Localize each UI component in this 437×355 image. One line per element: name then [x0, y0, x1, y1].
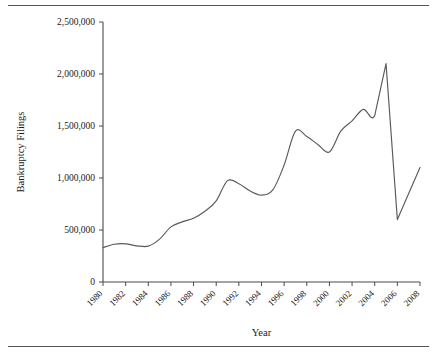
x-axis-title: Year: [252, 327, 272, 338]
x-tick-label: 2002: [334, 288, 354, 308]
x-tick-label: 2004: [356, 288, 376, 308]
chart-plot-area: 0500,0001,000,0001,500,0002,000,0002,500…: [0, 0, 437, 355]
line-chart-svg: 0500,0001,000,0001,500,0002,000,0002,500…: [0, 0, 437, 355]
x-tick-label: 1996: [266, 288, 286, 308]
y-axis-title: Bankruptcy Filings: [15, 112, 26, 193]
x-tick-label: 1998: [288, 288, 308, 308]
x-axis-tick-marks: [103, 282, 420, 286]
y-tick-label: 1,000,000: [57, 173, 95, 183]
y-tick-label: 0: [90, 277, 95, 287]
x-tick-label: 1990: [198, 288, 218, 308]
x-tick-label: 1982: [107, 288, 127, 308]
x-tick-label: 1980: [85, 288, 105, 308]
x-tick-label: 2008: [402, 288, 422, 308]
data-series-line: [103, 64, 420, 248]
figure-container: 0500,0001,000,0001,500,0002,000,0002,500…: [0, 0, 437, 355]
x-tick-label: 1994: [243, 288, 263, 308]
x-tick-label: 1992: [220, 288, 240, 308]
x-tick-label: 1988: [175, 288, 195, 308]
y-tick-label: 500,000: [64, 225, 95, 235]
y-axis-tick-labels: 0500,0001,000,0001,500,0002,000,0002,500…: [57, 17, 95, 287]
y-axis-tick-marks: [99, 22, 103, 282]
x-tick-label: 1986: [153, 288, 173, 308]
x-tick-label: 2006: [379, 288, 399, 308]
x-axis-tick-labels: 1980198219841986198819901992199419961998…: [85, 288, 422, 308]
y-tick-label: 2,000,000: [57, 69, 95, 79]
x-tick-label: 2000: [311, 288, 331, 308]
y-tick-label: 1,500,000: [57, 121, 95, 131]
x-tick-label: 1984: [130, 288, 150, 308]
y-tick-label: 2,500,000: [57, 17, 95, 27]
